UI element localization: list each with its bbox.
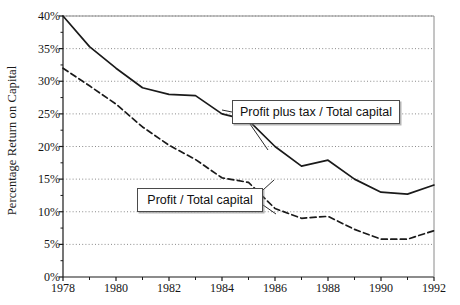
tick-marks — [59, 16, 434, 281]
chart-container: Percentage Return on Capital 0%5%10%15%2… — [0, 0, 460, 305]
annotation-profit: Profit / Total capital — [137, 188, 263, 212]
series-line-1 — [63, 68, 434, 239]
annotation-profit-text: Profit / Total capital — [147, 193, 252, 207]
plot-area — [0, 0, 460, 305]
annotation-profit-plus-tax: Profit plus tax / Total capital — [232, 100, 400, 124]
annotation-profit-plus-tax-text: Profit plus tax / Total capital — [240, 105, 392, 119]
